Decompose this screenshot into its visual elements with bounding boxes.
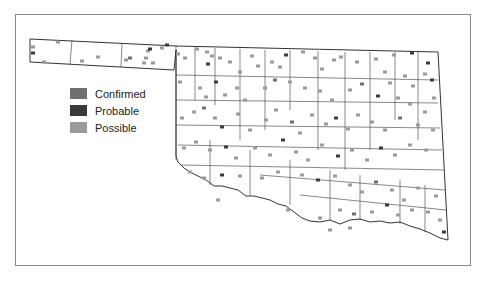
possible-marker xyxy=(160,47,164,50)
possible-marker xyxy=(238,71,242,74)
possible-marker xyxy=(410,209,414,212)
possible-marker xyxy=(390,189,394,192)
possible-marker xyxy=(402,199,406,202)
possible-marker xyxy=(393,154,397,157)
possible-marker xyxy=(192,111,196,114)
possible-marker xyxy=(182,147,186,150)
possible-marker xyxy=(346,128,350,131)
possible-marker xyxy=(178,81,182,84)
possible-marker xyxy=(235,87,239,90)
possible-marker xyxy=(348,184,352,187)
possible-marker xyxy=(205,51,209,54)
possible-marker xyxy=(416,124,420,127)
state-outline xyxy=(30,39,448,240)
confirmed-marker xyxy=(273,79,277,82)
possible-marker xyxy=(250,55,254,58)
possible-marker xyxy=(270,61,274,64)
possible-marker xyxy=(223,94,227,97)
possible-marker xyxy=(313,57,317,60)
possible-marker xyxy=(198,87,202,90)
possible-marker xyxy=(328,229,332,232)
possible-marker xyxy=(256,65,260,68)
confirmed-swatch xyxy=(70,88,87,99)
possible-marker xyxy=(228,61,232,64)
probable-marker xyxy=(281,139,285,142)
probable-marker xyxy=(284,54,288,57)
confirmed-marker xyxy=(202,107,206,110)
possible-marker xyxy=(124,59,128,62)
possible-marker xyxy=(210,55,214,58)
oklahoma-county-map xyxy=(0,0,485,283)
possible-marker xyxy=(423,111,427,114)
county-boundaries xyxy=(70,40,446,232)
possible-marker xyxy=(260,177,264,180)
possible-marker xyxy=(338,209,342,212)
possible-marker xyxy=(318,217,322,220)
possible-marker xyxy=(374,58,378,61)
possible-marker xyxy=(396,97,400,100)
possible-marker xyxy=(42,61,46,64)
probable-marker xyxy=(385,204,389,207)
probable-swatch xyxy=(70,105,87,116)
possible-marker xyxy=(426,211,430,214)
possible-marker xyxy=(286,209,290,212)
possible-marker xyxy=(330,99,334,102)
probable-marker xyxy=(220,126,224,129)
possible-marker xyxy=(408,144,412,147)
county-line xyxy=(121,43,122,67)
probable-marker xyxy=(165,44,169,47)
possible-marker xyxy=(303,87,307,90)
possible-marker xyxy=(411,85,415,88)
possible-marker xyxy=(348,89,352,92)
possible-marker xyxy=(204,96,208,99)
possible-marker xyxy=(438,219,442,222)
possible-marker xyxy=(360,191,364,194)
possible-marker xyxy=(432,97,436,100)
possible-marker xyxy=(216,199,220,202)
possible-marker xyxy=(213,117,217,120)
probable-marker xyxy=(426,62,430,65)
possible-marker xyxy=(348,227,352,230)
probable-marker xyxy=(224,146,228,149)
possible-marker xyxy=(392,54,396,57)
possible-marker xyxy=(278,66,282,69)
possible-marker xyxy=(408,103,412,106)
possible-marker xyxy=(318,90,322,93)
county-line xyxy=(178,145,442,150)
probable-marker xyxy=(334,117,338,120)
possible-marker xyxy=(333,175,337,178)
probable-marker xyxy=(220,174,224,177)
occurrence-markers xyxy=(31,41,446,234)
possible-marker xyxy=(423,73,427,76)
possible-marker xyxy=(194,141,198,144)
possible-marker xyxy=(188,171,192,174)
possible-marker xyxy=(56,41,60,44)
confirmed-marker xyxy=(374,181,378,184)
possible-marker xyxy=(431,129,435,132)
possible-marker xyxy=(350,149,354,152)
possible-marker xyxy=(248,129,252,132)
possible-marker xyxy=(288,81,292,84)
possible-swatch xyxy=(70,122,87,133)
possible-marker xyxy=(236,113,240,116)
possible-marker xyxy=(370,211,374,214)
possible-marker xyxy=(151,62,155,65)
possible-marker xyxy=(383,71,387,74)
possible-marker xyxy=(96,56,100,59)
possible-marker xyxy=(80,60,84,63)
possible-marker xyxy=(243,99,247,102)
possible-marker xyxy=(388,82,392,85)
possible-marker xyxy=(370,121,374,124)
legend-label: Confirmed xyxy=(95,88,146,100)
possible-marker xyxy=(355,61,359,64)
legend-item-possible: Possible xyxy=(70,119,146,136)
possible-marker xyxy=(396,214,400,217)
possible-marker xyxy=(339,56,343,59)
county-line xyxy=(70,40,72,64)
possible-marker xyxy=(365,159,369,162)
possible-marker xyxy=(424,149,428,152)
possible-marker xyxy=(202,177,206,180)
probable-marker xyxy=(336,155,340,158)
possible-marker xyxy=(403,75,407,78)
possible-marker xyxy=(195,48,199,51)
